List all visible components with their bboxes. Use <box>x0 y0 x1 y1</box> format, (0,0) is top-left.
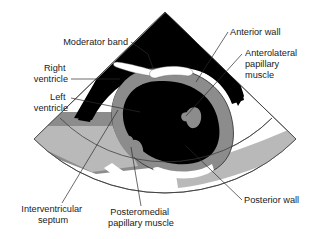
label-interventricular-septum-line2: septum <box>38 215 68 225</box>
label-left-ventricle: Left ventricle <box>34 92 68 113</box>
label-anterolateral-papillary-muscle-line3: muscle <box>245 70 274 80</box>
label-right-ventricle-line1: Right <box>44 63 66 73</box>
label-interventricular-septum-line1: Interventricular <box>21 204 82 214</box>
label-posteromedial-papillary-muscle-line2: papillary muscle <box>108 218 174 228</box>
diagram-canvas: Moderator band Right ventricle Left vent… <box>0 0 315 239</box>
label-anterolateral-papillary-muscle-line1: Anterolateral <box>245 48 297 58</box>
label-right-ventricle-line2: ventricle <box>34 74 68 84</box>
label-left-ventricle-line1: Left <box>50 92 66 102</box>
label-moderator-band: Moderator band <box>63 37 128 47</box>
label-anterior-wall: Anterior wall <box>230 27 281 37</box>
label-posteromedial-papillary-muscle-line1: Posteromedial <box>110 207 169 217</box>
label-anterolateral-papillary-muscle: Anterolateral papillary muscle <box>245 48 300 80</box>
echocardiogram-diagram: Moderator band Right ventricle Left vent… <box>0 0 315 239</box>
label-anterolateral-papillary-muscle-line2: papillary <box>245 59 280 69</box>
label-right-ventricle: Right ventricle <box>34 63 68 84</box>
label-left-ventricle-line2: ventricle <box>34 103 68 113</box>
label-posterior-wall: Posterior wall <box>244 195 299 205</box>
label-interventricular-septum: Interventricular septum <box>21 204 84 225</box>
label-posteromedial-papillary-muscle: Posteromedial papillary muscle <box>108 207 174 228</box>
